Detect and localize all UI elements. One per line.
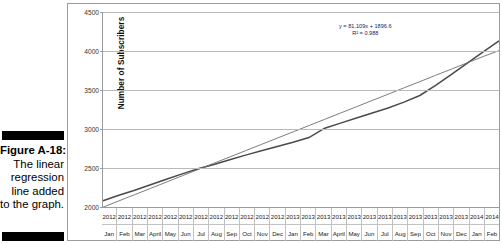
x-axis-month-label: Nov [439, 225, 453, 241]
gridline [103, 12, 499, 13]
caption-line-3: line added [0, 185, 64, 199]
x-axis-year-label: 2012 [270, 208, 284, 225]
y-axis-tick [100, 129, 103, 130]
x-axis-column: 2013Mar [316, 208, 331, 241]
y-axis-tick-label: 2000 [84, 204, 99, 211]
x-axis-month-label: Jul [194, 225, 208, 241]
x-axis-column: 2013Dec [454, 208, 469, 241]
x-axis-month-label: Jun [362, 225, 376, 241]
x-axis-month-label: Feb [485, 225, 499, 241]
x-axis-year-label: 2013 [408, 208, 422, 225]
y-axis-tick [100, 90, 103, 91]
x-axis-month-label: April [148, 225, 162, 241]
x-axis-year-label: 2013 [347, 208, 361, 225]
caption-text: Figure A-18: The linear regression line … [0, 144, 64, 212]
x-axis-year-label: 2013 [424, 208, 438, 225]
x-axis-column: 2012April [148, 208, 163, 241]
x-axis-month-label: Jan [286, 225, 300, 241]
x-axis-month-label: Jul [378, 225, 392, 241]
data-series-line [103, 41, 499, 201]
x-axis-column: 2012Sep [225, 208, 240, 241]
x-axis-month-label: April [332, 225, 346, 241]
x-axis-column: 2013Jun [362, 208, 377, 241]
x-axis-column: 2012Jun [179, 208, 194, 241]
x-axis-month-label: May [347, 225, 361, 241]
series-lines [103, 12, 499, 207]
gridline [103, 168, 499, 169]
x-axis-labels: 2012Jan2012Feb2012Mar2012April2012May201… [102, 207, 499, 241]
x-axis-month-label: Dec [454, 225, 468, 241]
x-axis-year-label: 2013 [362, 208, 376, 225]
x-axis-year-label: 2013 [393, 208, 407, 225]
x-axis-month-label: Oct [424, 225, 438, 241]
x-axis-year-label: 2012 [255, 208, 269, 225]
caption-line-2: regression [0, 171, 64, 185]
x-axis-year-label: 2014 [485, 208, 499, 225]
x-axis-column: 2014Jan [470, 208, 485, 241]
x-axis-month-label: Feb [117, 225, 131, 241]
x-axis-year-label: 2012 [117, 208, 131, 225]
x-axis-column: 2012Dec [270, 208, 285, 241]
x-axis-year-label: 2013 [454, 208, 468, 225]
x-axis-month-label: May [163, 225, 177, 241]
x-axis-year-label: 2013 [316, 208, 330, 225]
y-axis-tick-label: 3500 [84, 87, 99, 94]
plot-area: 200025003000350040004500 [102, 12, 499, 207]
x-axis-year-label: 2013 [332, 208, 346, 225]
y-axis-tick [100, 12, 103, 13]
x-axis-year-label: 2012 [133, 208, 147, 225]
x-axis-month-label: Sep [225, 225, 239, 241]
caption-figure-label: Figure A-18: [0, 144, 64, 158]
caption-rule-top [2, 131, 64, 140]
caption-line-1: The linear [0, 158, 64, 172]
gridline [103, 129, 499, 130]
x-axis-year-label: 2013 [378, 208, 392, 225]
x-axis-year-label: 2012 [194, 208, 208, 225]
caption-line-4: to the graph. [0, 198, 64, 212]
x-axis-month-label: Jan [470, 225, 484, 241]
y-axis-tick-label: 4000 [84, 48, 99, 55]
x-axis-month-label: Aug [393, 225, 407, 241]
x-axis-year-label: 2013 [439, 208, 453, 225]
x-axis-month-label: Sep [408, 225, 422, 241]
x-axis-column: 2013Jul [378, 208, 393, 241]
figure-container: Figure A-18: The linear regression line … [0, 0, 502, 244]
x-axis-column: 2013April [332, 208, 347, 241]
x-axis-year-label: 2013 [286, 208, 300, 225]
figure-caption-block: Figure A-18: The linear regression line … [0, 0, 66, 244]
y-axis-tick-label: 4500 [84, 9, 99, 16]
x-axis-column: 2012May [163, 208, 178, 241]
x-axis-column: 2013May [347, 208, 362, 241]
x-axis-month-label: Aug [209, 225, 223, 241]
x-axis-column: 2012Aug [209, 208, 224, 241]
regression-equation: y = 81.109x + 1896.6 [339, 23, 392, 30]
x-axis-month-label: Mar [133, 225, 147, 241]
x-axis-month-label: Dec [270, 225, 284, 241]
gridline [103, 51, 499, 52]
x-axis-column: 2012Mar [133, 208, 148, 241]
x-axis-year-label: 2013 [301, 208, 315, 225]
x-axis-month-label: Jun [179, 225, 193, 241]
y-axis-tick-label: 2500 [84, 165, 99, 172]
x-axis-year-label: 2012 [179, 208, 193, 225]
x-axis-year-label: 2012 [209, 208, 223, 225]
x-axis-column: 2012Jul [194, 208, 209, 241]
x-axis-column: 2014Feb [485, 208, 499, 241]
x-axis-year-label: 2012 [102, 208, 116, 225]
y-axis-tick [100, 51, 103, 52]
x-axis-column: 2012Jan [102, 208, 117, 241]
y-axis-tick-label: 3000 [84, 126, 99, 133]
regression-equation-annotation: y = 81.109x + 1896.6 R² = 0.988 [339, 23, 392, 37]
x-axis-column: 2013Oct [424, 208, 439, 241]
x-axis-year-label: 2014 [470, 208, 484, 225]
x-axis-column: 2013Feb [301, 208, 316, 241]
x-axis-month-label: Mar [316, 225, 330, 241]
x-axis-year-label: 2012 [163, 208, 177, 225]
x-axis-year-label: 2012 [240, 208, 254, 225]
x-axis-column: 2013Jan [286, 208, 301, 241]
x-axis-column: 2013Aug [393, 208, 408, 241]
gridline [103, 90, 499, 91]
x-axis-column: 2012Nov [255, 208, 270, 241]
x-axis-month-label: Feb [301, 225, 315, 241]
x-axis-column: 2012Feb [117, 208, 132, 241]
